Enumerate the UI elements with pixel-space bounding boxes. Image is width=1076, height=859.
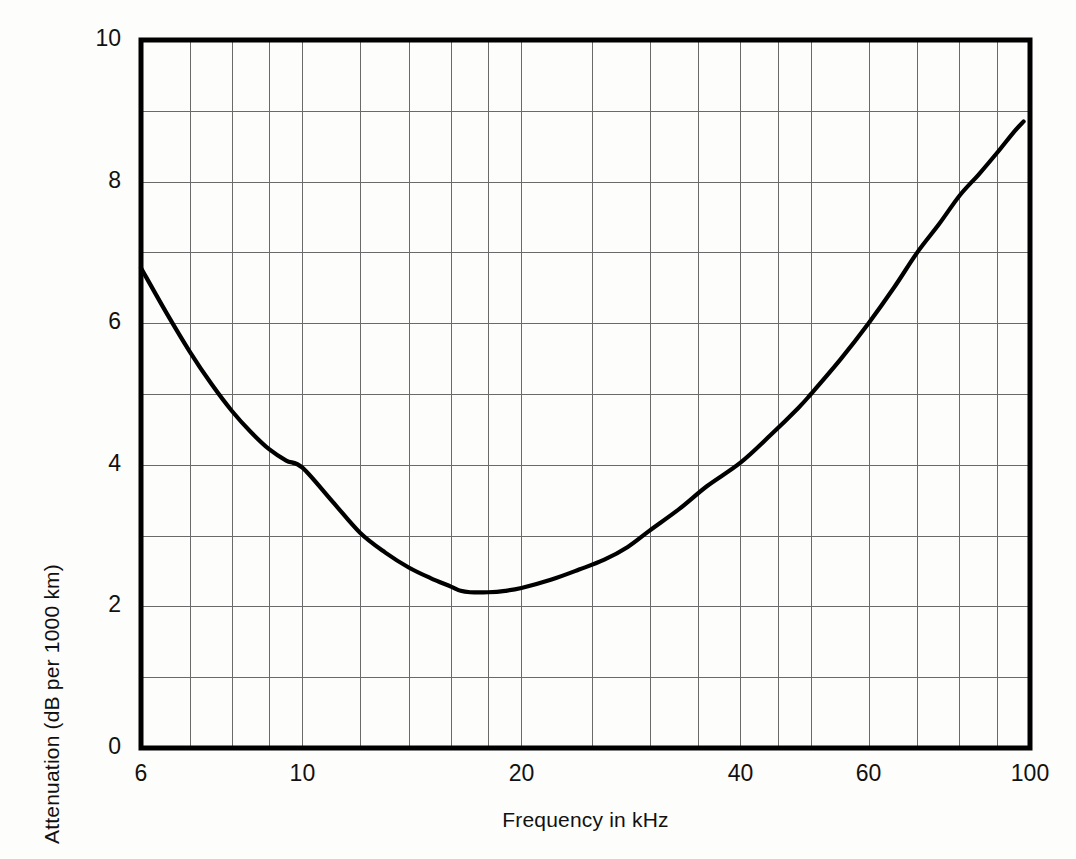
y-tick-0: 0 [41,733,121,760]
plot-area [0,0,1076,859]
y-tick-2: 2 [41,591,121,618]
curve-attenuation [141,121,1024,592]
x-tick-60: 60 [829,760,909,787]
y-tick-10: 10 [41,25,121,52]
attenuation-vs-frequency-chart: Attenuation (dB per 1000 km) Frequency i… [0,0,1076,859]
x-axis-title: Frequency in kHz [436,808,736,832]
y-tick-6: 6 [41,308,121,335]
x-tick-10: 10 [262,760,342,787]
x-tick-20: 20 [481,760,561,787]
x-tick-100: 100 [990,760,1070,787]
x-tick-40: 40 [700,760,780,787]
data-curves [141,121,1024,592]
horizontal-gridlines [141,112,1030,678]
y-tick-8: 8 [41,167,121,194]
x-tick-6: 6 [101,760,181,787]
y-tick-4: 4 [41,450,121,477]
